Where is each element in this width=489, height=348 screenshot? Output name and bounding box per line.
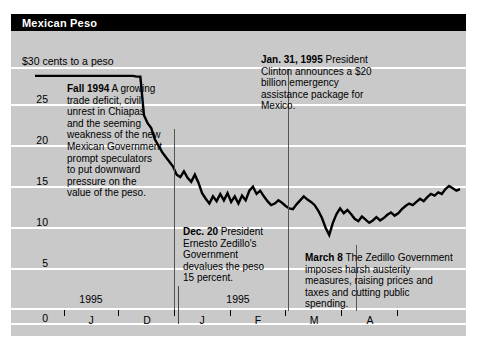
annotation-march-8: March 8 The Zedillo Government imposes h…: [305, 252, 453, 310]
x-tick-minor-4: [285, 310, 286, 316]
annotation-fall-1994-body: A growing trade deficit, civil unrest in…: [67, 83, 162, 198]
x-tick-minor-3: [230, 310, 231, 316]
year-divider: [178, 286, 179, 324]
x-label-m: M: [304, 314, 324, 326]
x-tick-major-dec: [174, 310, 175, 316]
x-label-j1: J: [81, 314, 101, 326]
x-year-right: 1995: [216, 293, 260, 305]
x-tick-minor-2: [118, 310, 119, 316]
x-tick-minor-5: [341, 310, 342, 316]
x-tick-minor-6: [397, 310, 398, 316]
x-tick-minor-1: [64, 310, 65, 316]
annotation-march-8-lead: March 8: [305, 252, 343, 263]
x-label-f: F: [248, 314, 268, 326]
page-title: Mexican Peso: [22, 17, 97, 29]
annotation-dec-20-lead: Dec. 20: [183, 226, 218, 237]
x-label-d: D: [137, 314, 157, 326]
annotation-jan-31-lead: Jan. 31, 1995: [261, 54, 323, 65]
chart-figure: Mexican Peso $30 cents to a peso 25 20 1…: [11, 14, 466, 336]
annotation-jan-31: Jan. 31, 1995 President Clinton announce…: [261, 54, 383, 112]
x-year-left: 1995: [69, 293, 113, 305]
annotation-fall-1994-lead: Fall 1994: [67, 83, 109, 94]
annotation-dec-20: Dec. 20 President Ernesto Zedillo's Gove…: [183, 226, 273, 284]
annotation-fall-1994: Fall 1994 A growing trade deficit, civil…: [67, 83, 163, 199]
x-label-a: A: [360, 314, 380, 326]
leader-line-dec20: [174, 129, 175, 311]
chart-title-bar: Mexican Peso: [11, 14, 466, 31]
x-label-j2: J: [192, 314, 212, 326]
plot-area: $30 cents to a peso 25 20 15 10 5 0 J D …: [11, 31, 466, 336]
